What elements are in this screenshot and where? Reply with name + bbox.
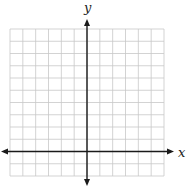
x-axis-label: x <box>178 145 186 160</box>
x-axis-right-arrow-icon <box>167 149 174 155</box>
y-axis-up-arrow-icon <box>84 19 90 26</box>
y-axis-down-arrow-icon <box>84 179 90 186</box>
y-axis-label: y <box>83 0 92 15</box>
coordinate-grid-chart: y x <box>0 0 191 194</box>
x-axis-left-arrow-icon <box>1 149 8 155</box>
